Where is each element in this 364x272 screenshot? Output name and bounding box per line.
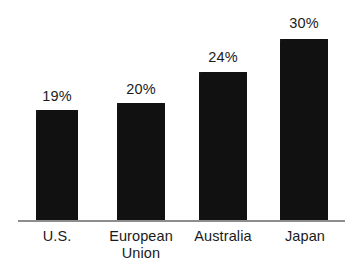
x-tick-label-us: U.S. — [17, 228, 97, 245]
x-axis-line — [18, 220, 345, 222]
bar-us — [36, 110, 78, 220]
bar-value-us: 19% — [36, 88, 78, 104]
x-tick-label-japan-line-1: Japan — [265, 228, 345, 245]
x-tick-label-european-union: European Union — [101, 228, 181, 261]
bar-value-australia: 24% — [199, 49, 247, 65]
bar-value-japan: 30% — [280, 15, 328, 31]
bar-australia — [199, 72, 247, 220]
bar-european-union — [117, 103, 165, 220]
bar-value-european-union: 20% — [117, 81, 165, 97]
x-tick-label-us-line-1: U.S. — [17, 228, 97, 245]
x-tick-label-european-union-line-2: Union — [101, 245, 181, 262]
bar-japan — [280, 39, 328, 220]
x-tick-label-european-union-line-1: European — [101, 228, 181, 245]
x-tick-label-japan: Japan — [265, 228, 345, 245]
x-tick-label-australia: Australia — [183, 228, 263, 245]
x-tick-label-australia-line-1: Australia — [183, 228, 263, 245]
bar-chart-figure: 19% 20% 24% 30% U.S. European Union Aust… — [0, 0, 364, 272]
plot-area: 19% 20% 24% 30% U.S. European Union Aust… — [0, 0, 364, 272]
